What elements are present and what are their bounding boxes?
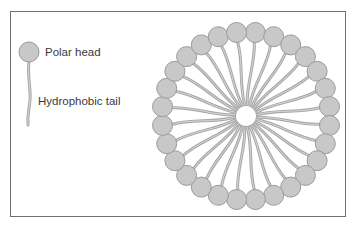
polar-head [315, 78, 335, 98]
polar-head [320, 115, 340, 135]
polar-head [157, 134, 177, 154]
polar-head [153, 115, 173, 135]
polar-head-label: Polar head [45, 46, 101, 58]
polar-head [245, 190, 265, 210]
polar-head [227, 23, 247, 43]
micelle [153, 23, 340, 210]
legend-head-icon [19, 42, 39, 62]
polar-head [245, 23, 265, 43]
polar-head [227, 190, 247, 210]
polar-head [320, 97, 340, 117]
micelle-core [236, 106, 256, 126]
polar-head [153, 97, 173, 117]
hydrophobic-tail-label: Hydrophobic tail [38, 95, 120, 107]
legend-molecule [19, 42, 39, 125]
polar-head [208, 27, 228, 47]
polar-head [264, 185, 284, 205]
micelle-diagram: Polar head Hydrophobic tail [0, 0, 357, 226]
